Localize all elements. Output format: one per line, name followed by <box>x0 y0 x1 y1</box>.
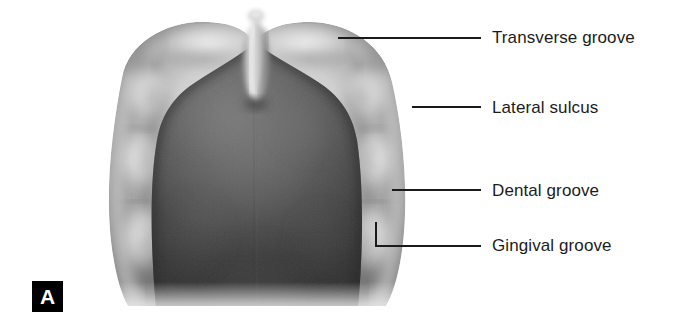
bottom-white-cut <box>0 306 440 320</box>
anatomical-illustration <box>0 0 681 320</box>
callout-label-gingival-groove: Gingival groove <box>492 236 612 255</box>
callout-label-lateral-sulcus: Lateral sulcus <box>492 98 598 117</box>
figure-panel-a: Transverse groove Lateral sulcus Dental … <box>0 0 681 320</box>
callout-label-dental-groove: Dental groove <box>492 181 599 200</box>
panel-label-badge: A <box>32 281 63 312</box>
callout-label-transverse-groove: Transverse groove <box>492 28 635 47</box>
